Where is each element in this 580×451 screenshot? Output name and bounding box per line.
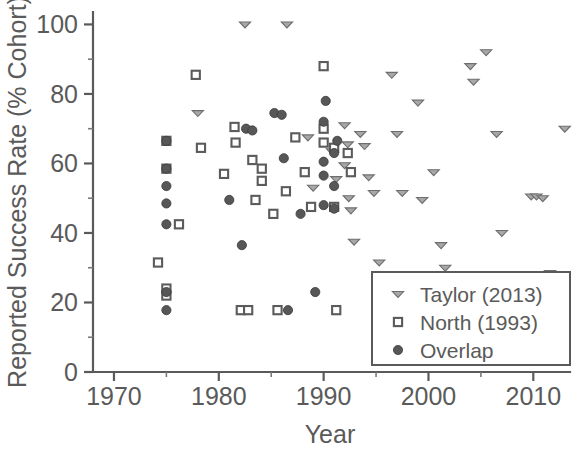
data-point [412, 100, 423, 106]
data-point [339, 123, 350, 129]
legend-label-0: Taylor (2013) [420, 283, 543, 306]
data-point [355, 131, 366, 137]
data-point [231, 139, 239, 147]
data-point [283, 306, 292, 315]
data-point [347, 168, 355, 176]
data-point [330, 181, 339, 190]
data-point [162, 306, 171, 315]
data-point [248, 126, 257, 135]
data-point [368, 191, 379, 197]
data-point [192, 71, 200, 79]
data-point [269, 210, 277, 218]
data-point [162, 136, 171, 145]
data-point [162, 181, 171, 190]
data-point [237, 241, 246, 250]
x-axis-title: Year [305, 420, 356, 448]
x-tick-label-1990: 1990 [296, 382, 352, 410]
data-point [363, 175, 374, 181]
y-axis-title: Reported Success Rate (% Cohort) [3, 0, 31, 388]
legend-label-2: Overlap [420, 339, 494, 362]
series-taylor-2013 [192, 22, 570, 276]
scatter-plot-figure: 19701980199020002010 020406080100 Taylor… [0, 0, 580, 451]
data-point [296, 209, 305, 218]
data-point [397, 191, 408, 197]
data-point [251, 196, 259, 204]
data-point [248, 156, 256, 164]
data-point [230, 123, 238, 131]
y-tick-label-80: 80 [50, 80, 78, 108]
data-point [440, 265, 451, 271]
data-point [345, 208, 356, 214]
data-point [162, 287, 171, 296]
data-point [320, 139, 328, 147]
data-point [162, 164, 171, 173]
data-point [197, 144, 205, 152]
data-point [332, 306, 340, 314]
y-tick-label-100: 100 [36, 10, 78, 38]
data-point [162, 199, 171, 208]
data-point [348, 239, 359, 245]
data-point [391, 131, 402, 137]
data-point [491, 131, 502, 137]
data-point [225, 195, 234, 204]
data-point [239, 22, 250, 28]
data-point [374, 260, 385, 266]
data-point [468, 79, 479, 85]
x-tick-label-2010: 2010 [505, 382, 561, 410]
data-point [435, 243, 446, 249]
data-point [319, 157, 328, 166]
data-point [465, 64, 476, 70]
y-tick-label-20: 20 [50, 288, 78, 316]
data-point [330, 148, 339, 157]
data-point [319, 171, 328, 180]
data-point [359, 144, 370, 150]
data-point [330, 204, 339, 213]
x-tick-label-1970: 1970 [86, 382, 142, 410]
data-point [308, 185, 319, 191]
data-point [281, 22, 292, 28]
y-tick-label-40: 40 [50, 219, 78, 247]
data-point [481, 50, 492, 56]
x-tick-label-2000: 2000 [401, 382, 457, 410]
data-point [342, 142, 353, 148]
data-point [343, 196, 354, 202]
data-point [301, 168, 309, 176]
data-point [319, 117, 328, 126]
legend: Taylor (2013)North (1993)Overlap [372, 272, 570, 365]
data-point [333, 136, 342, 145]
data-point [319, 201, 328, 210]
x-tick-label-1980: 1980 [191, 382, 247, 410]
data-point [321, 96, 330, 105]
data-point [320, 62, 328, 70]
data-point [428, 170, 439, 176]
data-point [162, 220, 171, 229]
data-point [496, 231, 507, 237]
data-point [258, 177, 266, 185]
legend-marker-filled-circle [393, 345, 402, 354]
data-point [175, 220, 183, 228]
data-point [154, 258, 162, 266]
data-point [279, 154, 288, 163]
legend-marker-open-square [394, 318, 402, 326]
data-point [220, 170, 228, 178]
data-point [282, 187, 290, 195]
data-point [291, 133, 299, 141]
x-tick-labels: 19701980199020002010 [86, 382, 561, 410]
data-point [273, 306, 281, 314]
legend-label-1: North (1993) [420, 311, 538, 334]
data-point [258, 165, 266, 173]
data-point [302, 135, 313, 141]
y-tick-labels: 020406080100 [36, 10, 78, 386]
data-point [192, 111, 203, 117]
data-point [344, 149, 352, 157]
data-point [307, 203, 315, 211]
data-point [244, 306, 252, 314]
data-point [417, 197, 428, 203]
data-point [311, 287, 320, 296]
data-point [277, 110, 286, 119]
data-point [537, 196, 548, 202]
data-point [559, 126, 570, 132]
plot-canvas: 19701980199020002010 020406080100 Taylor… [0, 0, 580, 451]
y-tick-label-60: 60 [50, 149, 78, 177]
y-tick-label-0: 0 [64, 358, 78, 386]
